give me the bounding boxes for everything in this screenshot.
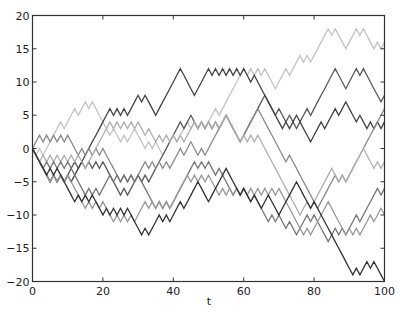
y-tick-label: −10 <box>6 209 29 222</box>
series-line-walk-1 <box>33 29 385 155</box>
y-tick-label: 5 <box>23 109 30 122</box>
x-tick-label: 40 <box>166 285 180 298</box>
x-tick-label: 20 <box>96 285 110 298</box>
y-tick-label: 10 <box>16 76 30 89</box>
y-tick-label: −15 <box>6 242 29 255</box>
x-tick-label: 80 <box>307 285 321 298</box>
series-line-walk-3 <box>33 69 385 182</box>
x-tick-label: 100 <box>374 285 395 298</box>
ticks-layer: 020406080100−20−15−10−505101520 <box>6 10 395 298</box>
series-line-walk-4 <box>33 109 385 209</box>
x-tick-label: 60 <box>237 285 251 298</box>
y-tick-label: 15 <box>16 43 30 56</box>
y-tick-label: 0 <box>23 143 30 156</box>
random-walk-chart: 020406080100−20−15−10−505101520 t <box>0 0 405 314</box>
x-tick-label: 0 <box>29 285 36 298</box>
series-layer <box>33 29 385 282</box>
y-tick-label: −5 <box>13 176 29 189</box>
y-tick-label: 20 <box>16 10 30 23</box>
y-tick-label: −20 <box>6 276 29 289</box>
series-line-walk-5 <box>33 115 385 215</box>
x-axis-label: t <box>207 295 212 308</box>
